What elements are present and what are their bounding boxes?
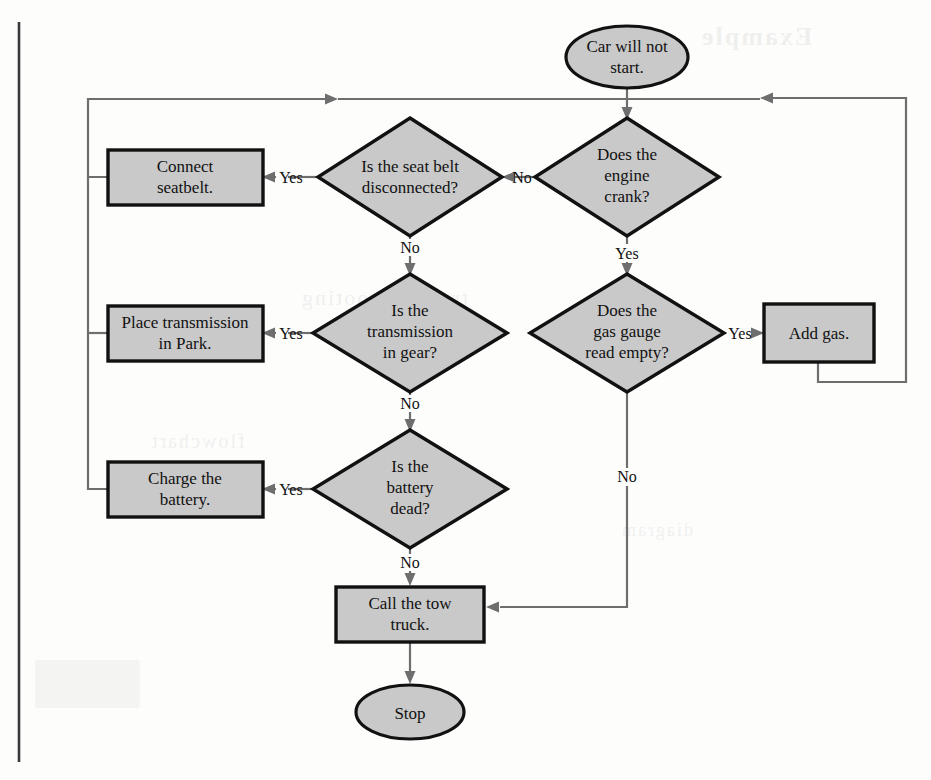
node-battery-label-line3: dead? <box>390 499 430 518</box>
node-gas-label-line1: Does the <box>597 301 657 320</box>
node-charge-label-line1: Charge the <box>148 469 222 488</box>
edge-label-seatbelt-yes: Yes <box>279 169 302 186</box>
node-gas-label-line2: gas gauge <box>593 322 661 341</box>
flowchart-canvas: Car will not start. Is the seat belt dis… <box>0 0 931 780</box>
edge-label-battery-down: No <box>400 554 420 571</box>
node-seatbelt-label-line1: Is the seat belt <box>361 157 459 176</box>
arrowhead-feedback-top-right <box>325 94 338 105</box>
node-connect-seatbelt[interactable]: Connect seatbelt. <box>108 150 263 205</box>
node-crank-label-line1: Does the <box>597 145 657 164</box>
node-connect-label-line1: Connect <box>157 157 214 176</box>
edge-label-trans-yes: Yes <box>279 325 302 342</box>
edge-label-gas-yes: Yes <box>728 325 751 342</box>
node-park-label-line2: in Park. <box>159 334 212 353</box>
node-stop-label: Stop <box>394 704 425 723</box>
node-battery-label-line2: battery <box>386 478 434 497</box>
arrowhead-battery-down <box>405 573 416 586</box>
edge-label-seatbelt-no: No <box>512 169 532 186</box>
edge-label-seatbelt-down: No <box>400 239 420 256</box>
node-tow-label-line1: Call the tow <box>368 594 452 613</box>
node-gas-label-line3: read empty? <box>585 343 669 362</box>
node-battery-question[interactable]: Is the battery dead? <box>313 430 507 548</box>
edge-label-gas-no: No <box>617 468 637 485</box>
edge-label-trans-down: No <box>400 395 420 412</box>
node-seatbelt-question[interactable]: Is the seat belt disconnected? <box>318 118 502 236</box>
node-place-in-park[interactable]: Place transmission in Park. <box>108 306 263 361</box>
node-crank-label-line3: crank? <box>604 187 649 206</box>
arrowhead-tow-to-stop <box>405 671 416 684</box>
node-crank-question[interactable]: Does the engine crank? <box>535 118 719 236</box>
node-transmission-question[interactable]: Is the transmission in gear? <box>313 274 507 392</box>
node-connect-label-line2: seatbelt. <box>157 178 213 197</box>
node-battery-label-line1: Is the <box>391 457 428 476</box>
node-trans-label-line3: in gear? <box>383 343 437 362</box>
node-trans-label-line1: Is the <box>391 301 428 320</box>
node-gas-question[interactable]: Does the gas gauge read empty? <box>530 274 724 392</box>
flowchart-page: Example troubleshooting flowchart diagra… <box>0 0 931 780</box>
arrowhead-gas-yes <box>751 328 764 339</box>
node-add-gas[interactable]: Add gas. <box>764 304 874 362</box>
node-start-label-line1: Car will not <box>586 37 667 56</box>
node-start-label-line2: start. <box>610 58 644 77</box>
node-seatbelt-label-line2: disconnected? <box>362 178 458 197</box>
node-charge-battery[interactable]: Charge the battery. <box>108 462 263 517</box>
node-trans-label-line2: transmission <box>367 322 453 341</box>
arrowhead-gas-no <box>486 602 499 613</box>
node-stop[interactable]: Stop <box>356 685 464 739</box>
node-park-label-line1: Place transmission <box>121 313 249 332</box>
edge-label-crank-yes: Yes <box>615 245 638 262</box>
node-tow-label-line2: truck. <box>390 615 429 634</box>
shape-layer: Car will not start. Is the seat belt dis… <box>108 26 874 739</box>
node-addgas-label: Add gas. <box>789 324 849 343</box>
edge-gas-no-b <box>500 486 627 607</box>
arrowhead-feedback-top-left <box>760 93 773 104</box>
node-crank-label-line2: engine <box>604 166 649 185</box>
node-charge-label-line2: battery. <box>160 490 210 509</box>
node-start[interactable]: Car will not start. <box>566 26 688 88</box>
edge-label-battery-yes: Yes <box>279 481 302 498</box>
node-call-tow-truck[interactable]: Call the tow truck. <box>336 587 484 642</box>
